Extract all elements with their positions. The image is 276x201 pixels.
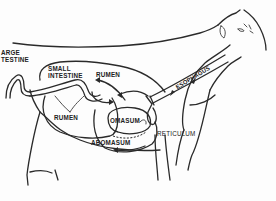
cow-brow (244, 24, 253, 33)
cow-back-outline (13, 25, 218, 47)
large-intestine-path-2 (10, 80, 30, 98)
cow-neck-outline (183, 45, 230, 130)
cow-ear (220, 26, 225, 38)
rumen-arrow-3 (120, 91, 148, 96)
digestive-diagram: ARGE TESTINE SMALL INTESTINE RUMEN RUMEN… (0, 0, 276, 201)
label-large-intestine: ARGE TESTINE (1, 50, 29, 63)
label-line: INTESTINE (48, 73, 83, 80)
rumen-inner-line (55, 96, 84, 112)
omasum-inner (140, 120, 146, 124)
cow-throat-outline (190, 57, 241, 105)
label-omasum: OMASUM (110, 118, 140, 125)
cow-hind-leg (27, 112, 58, 185)
label-rumen-upper: RUMEN (96, 72, 120, 79)
reticulum-junction (146, 96, 156, 124)
cow-outline-drawing (0, 0, 276, 201)
cow-tail-rear (30, 90, 40, 112)
cow-eye (238, 29, 244, 32)
label-abomasum: ABOMASUM (91, 140, 130, 147)
abomasum-path (113, 132, 146, 138)
label-rumen-lower: RUMEN (54, 115, 78, 122)
label-small-intestine: SMALL INTESTINE (48, 66, 83, 79)
small-intestine-path-2 (30, 85, 102, 101)
label-line: TESTINE (1, 57, 29, 64)
label-reticulum: RETICULUM (157, 131, 196, 138)
cow-front-leg-2 (155, 135, 170, 180)
